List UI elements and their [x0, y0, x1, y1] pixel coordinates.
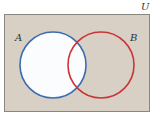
universe-label: U [141, 1, 150, 12]
set-a-label: A [14, 32, 22, 43]
venn-diagram: A B U [0, 0, 154, 117]
set-b-label: B [129, 32, 137, 43]
